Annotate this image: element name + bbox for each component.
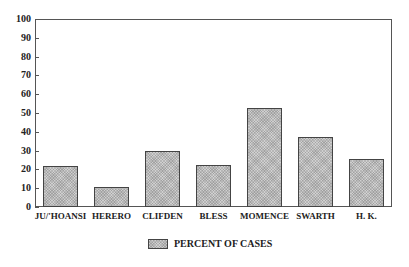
y-tick-label: 30	[1, 146, 31, 156]
y-tick	[35, 151, 39, 152]
y-tick	[35, 132, 39, 133]
y-tick-label: 20	[1, 164, 31, 174]
y-tick	[35, 75, 39, 76]
bar	[196, 165, 231, 207]
y-tick	[35, 207, 39, 208]
y-tick-label: 50	[1, 108, 31, 118]
y-tick	[35, 57, 39, 58]
bar	[247, 108, 282, 207]
y-tick	[35, 113, 39, 114]
y-tick-label: 10	[1, 183, 31, 193]
y-tick-label: 100	[1, 14, 31, 24]
bar	[94, 187, 129, 207]
y-tick	[35, 94, 39, 95]
bar	[145, 151, 180, 207]
y-tick	[35, 188, 39, 189]
bar	[349, 159, 384, 207]
y-tick	[35, 38, 39, 39]
legend-swatch	[148, 239, 168, 249]
legend-label: PERCENT OF CASES	[174, 238, 272, 249]
bar	[298, 137, 333, 207]
y-tick-label: 60	[1, 89, 31, 99]
y-tick	[35, 169, 39, 170]
legend: PERCENT OF CASES	[148, 238, 272, 249]
y-tick-label: 70	[1, 70, 31, 80]
x-tick-label: H. K.	[332, 211, 402, 221]
y-tick	[35, 19, 39, 20]
y-tick-label: 90	[1, 33, 31, 43]
bar	[43, 166, 78, 207]
y-tick-label: 40	[1, 127, 31, 137]
y-tick-label: 80	[1, 52, 31, 62]
